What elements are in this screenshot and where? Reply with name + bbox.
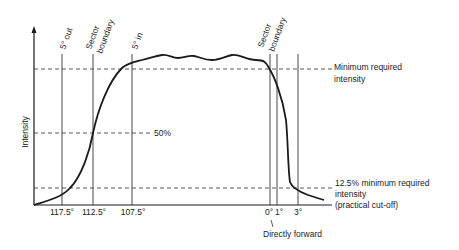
directly-forward-pointer (271, 220, 273, 227)
minimum-required-label-2: intensity (334, 74, 366, 84)
minimum-required-label-1: Minimum required (334, 62, 402, 72)
tick-117-5: 117.5° (50, 207, 74, 217)
intensity-diagram: Intensity 5° out Sector boundary 5° in S… (0, 0, 459, 250)
fifty-percent-label: 50% (154, 128, 171, 138)
y-axis-arrow-icon (32, 26, 37, 33)
cutoff-label-3: (practical cut-off) (335, 200, 398, 210)
label-5-out: 5° out (57, 26, 74, 51)
y-axis-label: Intensity (20, 115, 30, 147)
cutoff-label-1: 12.5% minimum required (335, 178, 430, 188)
tick-0: 0° (265, 207, 273, 217)
directly-forward-label: Directly forward (263, 229, 322, 239)
tick-1: 1° (275, 207, 283, 217)
label-5-in: 5° in (129, 31, 144, 51)
tick-107-5: 107.5° (121, 207, 146, 217)
tick-112-5: 112.5° (82, 207, 106, 217)
tick-3: 3° (294, 207, 302, 217)
cutoff-label-2: intensity (335, 189, 367, 199)
intensity-curve (34, 55, 324, 205)
